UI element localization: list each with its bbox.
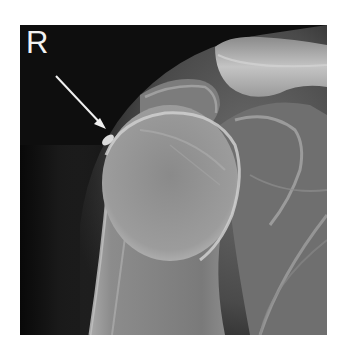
- side-marker-label: R: [26, 25, 48, 61]
- shoulder-radiograph: [20, 25, 327, 335]
- xray-image: R: [20, 25, 327, 335]
